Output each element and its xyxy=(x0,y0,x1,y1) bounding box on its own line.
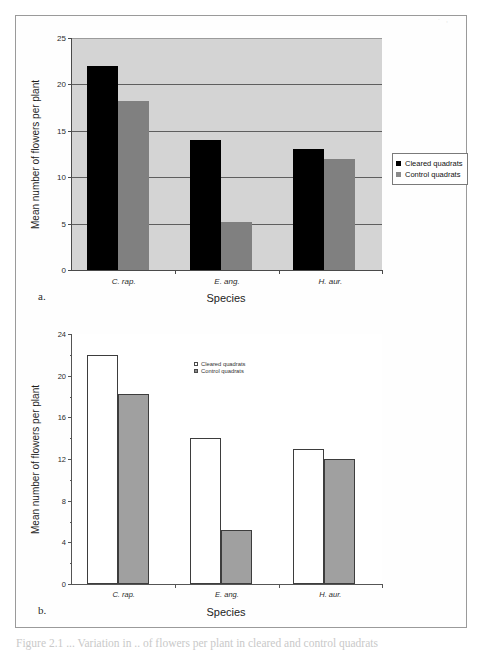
chart-b-bar xyxy=(118,394,149,584)
chart-b-y-axis-title: Mean number of flowers per plant xyxy=(28,334,42,584)
legend-swatch-control-icon-b xyxy=(194,369,198,373)
chart-a-y-tick-mark xyxy=(68,84,72,85)
chart-a-y-tick-mark xyxy=(68,177,72,178)
legend-swatch-control-icon xyxy=(396,172,401,177)
figure-caption: Figure 2.1 ... Variation in .. of flower… xyxy=(16,636,466,650)
chart-a-bar xyxy=(190,140,221,270)
chart-a-gridline xyxy=(72,84,382,85)
chart-panel-b: Mean number of flowers per plant 0481216… xyxy=(16,312,468,627)
chart-a-y-tick-label: 25 xyxy=(57,34,66,43)
legend-label-control: Control quadrats xyxy=(405,170,460,179)
chart-a-y-tick-label: 15 xyxy=(57,126,66,135)
chart-a-bar xyxy=(324,159,355,270)
chart-a-x-tick-label: H. aur. xyxy=(318,277,342,286)
chart-b-y-tick-mark xyxy=(68,417,72,418)
chart-a-legend: Cleared quadrats Control quadrats xyxy=(392,153,468,185)
chart-b-x-tick-label: C. rap. xyxy=(112,590,135,599)
legend-item-cleared-b: Cleared quadrats xyxy=(194,361,245,367)
chart-b-bar xyxy=(293,449,324,584)
chart-a-y-axis-title: Mean number of flowers per plant xyxy=(28,38,42,270)
legend-item-control: Control quadrats xyxy=(396,170,463,179)
chart-a-y-tick-mark xyxy=(68,270,72,271)
chart-a-y-tick-label: 5 xyxy=(62,219,66,228)
chart-b-y-minor-tick-mark xyxy=(70,563,73,564)
chart-b-y-tick-label: 12 xyxy=(58,455,66,464)
chart-b-y-tick-mark xyxy=(68,542,72,543)
chart-b-x-tick-mark xyxy=(279,584,280,588)
chart-b-y-minor-tick-mark xyxy=(70,438,73,439)
chart-a-x-tick-label: E. ang. xyxy=(214,277,239,286)
chart-b-y-minor-tick-mark xyxy=(70,397,73,398)
chart-b-x-axis-title: Species xyxy=(71,606,381,618)
chart-b-y-tick-label: 16 xyxy=(58,413,66,422)
chart-a-bar xyxy=(87,66,118,270)
chart-b-x-tick-mark xyxy=(382,584,383,588)
chart-b-legend: Cleared quadrats Control quadrats xyxy=(194,360,245,375)
chart-a-y-tick-label: 10 xyxy=(57,173,66,182)
chart-b-y-minor-tick-mark xyxy=(70,355,73,356)
chart-a-y-tick-label: 20 xyxy=(57,80,66,89)
chart-b-bar xyxy=(190,438,221,584)
chart-a-x-tick-mark xyxy=(382,270,383,274)
chart-b-y-tick-mark xyxy=(68,459,72,460)
chart-b-y-tick-mark xyxy=(68,501,72,502)
chart-a-x-axis-title: Species xyxy=(71,292,381,304)
legend-label-control-b: Control quadrats xyxy=(201,368,244,374)
chart-b-bar xyxy=(87,355,118,584)
chart-b-y-tick-mark xyxy=(68,584,72,585)
chart-a-x-tick-mark xyxy=(175,270,176,274)
panel-label-a: a. xyxy=(38,290,46,302)
legend-item-cleared: Cleared quadrats xyxy=(396,159,463,168)
chart-panel-a: Mean number of flowers per plant 0510152… xyxy=(16,16,468,306)
chart-a-y-tick-mark xyxy=(68,131,72,132)
chart-b-y-tick-label: 0 xyxy=(62,580,66,589)
chart-b-y-tick-mark xyxy=(68,334,72,335)
chart-a-y-axis-title-text: Mean number of flowers per plant xyxy=(30,80,41,229)
chart-b-x-tick-label: E. ang. xyxy=(215,590,239,599)
chart-a-bar xyxy=(118,101,149,270)
chart-b-x-tick-mark xyxy=(175,584,176,588)
chart-b-y-tick-label: 20 xyxy=(58,371,66,380)
chart-b-y-minor-tick-mark xyxy=(70,522,73,523)
chart-b-y-axis-title-text: Mean number of flowers per plant xyxy=(30,385,41,534)
chart-b-y-minor-tick-mark xyxy=(70,480,73,481)
chart-a-y-tick-mark xyxy=(68,224,72,225)
chart-a-x-tick-label: C. rap. xyxy=(112,277,136,286)
legend-label-cleared-b: Cleared quadrats xyxy=(201,361,245,367)
chart-a-plot-top-border xyxy=(72,38,382,39)
chart-b-x-tick-label: H. aur. xyxy=(319,590,341,599)
chart-a-bar xyxy=(221,222,252,270)
panel-label-b: b. xyxy=(38,604,46,616)
scanned-page-frame: · , Mean number of flowers per plant 051… xyxy=(15,15,467,628)
chart-b-y-tick-label: 24 xyxy=(58,330,66,339)
chart-a-bar xyxy=(293,149,324,270)
chart-b-y-tick-label: 4 xyxy=(62,538,66,547)
chart-a-y-tick-label: 0 xyxy=(62,266,66,275)
chart-b-bar xyxy=(221,530,252,584)
chart-a-plot-area: 0510152025C. rap.E. ang.H. aur. xyxy=(71,38,382,271)
legend-swatch-cleared-icon-b xyxy=(194,362,198,366)
legend-swatch-cleared-icon xyxy=(396,161,401,166)
chart-b-bar xyxy=(324,459,355,584)
chart-a-x-tick-mark xyxy=(279,270,280,274)
legend-label-cleared: Cleared quadrats xyxy=(405,159,463,168)
legend-item-control-b: Control quadrats xyxy=(194,368,245,374)
chart-a-y-tick-mark xyxy=(68,38,72,39)
chart-b-y-tick-mark xyxy=(68,376,72,377)
chart-b-y-tick-label: 8 xyxy=(62,496,66,505)
